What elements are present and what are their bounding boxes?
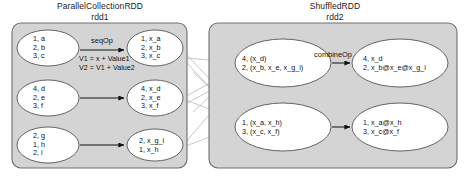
seq-op-formula: V1 = x + Value1 V2 = V1 + Value2 [79, 55, 135, 73]
node-rdd2-out-1-text: 4, x_d 2, x_b@x_e@x_g_i [363, 55, 426, 72]
formula-line-2: V2 = V1 + Value2 [79, 64, 135, 73]
panel-title-rdd1: ParallelCollectionRDD rdd1 [34, 1, 166, 22]
seq-op-label: seqOp [80, 36, 124, 45]
rdd-transformation-diagram: ParallelCollectionRDD rdd1 ShuffledRDD r… [0, 0, 467, 178]
combine-op-label: combineOp [307, 50, 359, 59]
node-rdd1-in-2 [17, 80, 79, 116]
node-rdd1-in-1 [17, 30, 79, 66]
node-rdd1-in-1-text: 1, a 2, b 3, c [33, 35, 45, 61]
node-rdd1-in-2-text: 4, d 2, e 3, f [33, 85, 45, 111]
node-rdd2-in-2-text: 1, (x_a, x_h) 3, (x_c, x_f) [242, 119, 282, 136]
panel-title-rdd2-line1: ShuffledRDD [310, 1, 361, 11]
node-rdd1-out-1-text: 1, x_a 2, x_b 3, x_c [141, 35, 161, 61]
panel-title-rdd1-line2: rdd1 [34, 12, 166, 23]
node-line: 1, x_h [139, 146, 164, 155]
panel-title-rdd2-line2: rdd2 [280, 12, 390, 23]
node-rdd2-in-1-text: 4, (x_d) 2, (x_b, x_e, x_g_i) [242, 55, 303, 72]
diagram-canvas [0, 0, 467, 178]
panel-title-rdd2: ShuffledRDD rdd2 [280, 1, 390, 22]
panel-title-rdd1-line1: ParallelCollectionRDD [57, 1, 143, 11]
node-line: 2, x_b@x_e@x_g_i [363, 64, 426, 73]
node-line: 3, c [33, 52, 45, 61]
node-rdd1-in-3 [17, 127, 79, 163]
node-line: 2, i [33, 149, 45, 158]
node-line: 3, x_f [141, 102, 161, 111]
node-line: 3, x_c [141, 52, 161, 61]
node-line: 3, (x_c, x_f) [242, 128, 282, 137]
node-line: 3, f [33, 102, 45, 111]
node-rdd2-out-2-text: 1, x_a@x_h 3, x_c@x_f [363, 119, 401, 136]
node-rdd1-out-3-text: 2, x_g_i 1, x_h [139, 137, 164, 154]
node-rdd1-in-3-text: 2, g 1, h 2, i [33, 132, 45, 158]
node-rdd1-out-2-text: 4, x_d 2, x_e 3, x_f [141, 85, 161, 111]
node-line: 2, (x_b, x_e, x_g_i) [242, 64, 303, 73]
node-line: 3, x_c@x_f [363, 128, 401, 137]
